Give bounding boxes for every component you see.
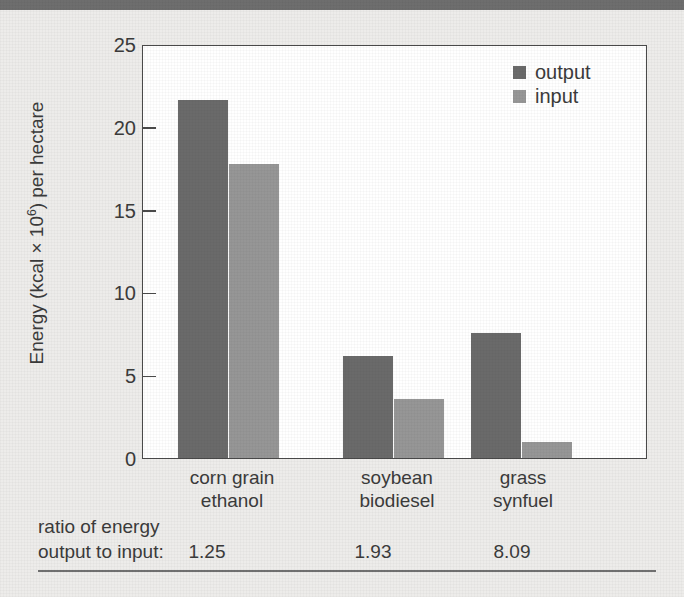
bottom-divider-rule	[38, 570, 656, 572]
legend-swatch-output-icon	[513, 66, 526, 79]
top-divider-rule	[0, 0, 684, 10]
y-tick-label-25: 25	[96, 35, 136, 55]
legend-swatch-input-icon	[513, 90, 526, 103]
x-category-label-corn-grain-ethanol: corn grain ethanol	[147, 466, 317, 512]
bar-soybean-biodiesel-output	[343, 356, 393, 458]
x-category-label-line2: ethanol	[147, 489, 317, 512]
y-axis-title: Energy (kcal × 106) per hectare	[26, 68, 48, 398]
x-category-label-line1: corn grain	[190, 467, 275, 488]
x-category-label-line1: grass	[500, 467, 546, 488]
bar-soybean-biodiesel-input	[394, 399, 444, 458]
ratio-caption-line2: output to input:	[38, 541, 164, 562]
y-axis-title-suffix: ) per hectare	[26, 102, 47, 210]
y-tick-label-0: 0	[96, 449, 136, 469]
legend: output input	[513, 60, 591, 108]
legend-label-input: input	[535, 86, 578, 106]
legend-item-output: output	[513, 60, 591, 84]
legend-label-output: output	[535, 62, 591, 82]
x-category-label-grass-synfuel: grass synfuel	[438, 466, 608, 512]
ratio-caption-line1: ratio of energy	[38, 516, 159, 537]
ratio-value-soybean-biodiesel: 1.93	[318, 539, 428, 564]
y-tick-mark-20	[143, 127, 156, 129]
y-tick-mark-5	[143, 376, 156, 378]
y-tick-label-5: 5	[96, 366, 136, 386]
plot-area: output input	[142, 45, 647, 459]
y-tick-label-15: 15	[96, 201, 136, 221]
bar-grass-synfuel-output	[471, 333, 521, 458]
y-tick-label-10: 10	[96, 283, 136, 303]
y-tick-mark-15	[143, 210, 156, 212]
bar-corn-grain-ethanol-input	[229, 164, 279, 458]
x-category-label-line1: soybean	[361, 467, 433, 488]
y-axis-title-prefix: Energy (kcal × 10	[26, 216, 47, 364]
ratio-caption: ratio of energy output to input:	[38, 514, 164, 564]
figure-container: 25 20 15 10 5 0 Energy (kcal × 106) per …	[0, 0, 684, 597]
x-category-label-line2: synfuel	[438, 489, 608, 512]
y-tick-label-20: 20	[96, 118, 136, 138]
y-tick-mark-10	[143, 293, 156, 295]
ratio-value-grass-synfuel: 8.09	[457, 539, 567, 564]
bar-grass-synfuel-input	[522, 442, 572, 458]
ratio-value-corn-grain-ethanol: 1.25	[152, 539, 262, 564]
y-axis-title-exponent: 6	[25, 209, 39, 216]
bar-corn-grain-ethanol-output	[178, 100, 228, 458]
legend-item-input: input	[513, 84, 591, 108]
